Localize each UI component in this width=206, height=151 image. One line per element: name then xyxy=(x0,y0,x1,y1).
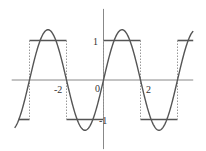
x-tick-label-neg2: -2 xyxy=(54,84,62,95)
y-tick-label-1: 1 xyxy=(93,36,98,47)
origin-label: 0 xyxy=(95,83,100,94)
axes xyxy=(12,9,194,149)
fourier-square-wave-chart: -2 2 1 -1 0 xyxy=(0,0,206,151)
tick-labels: -2 2 1 -1 0 xyxy=(54,36,151,126)
y-tick-label-neg1: -1 xyxy=(99,115,107,126)
x-tick-label-2: 2 xyxy=(146,84,151,95)
